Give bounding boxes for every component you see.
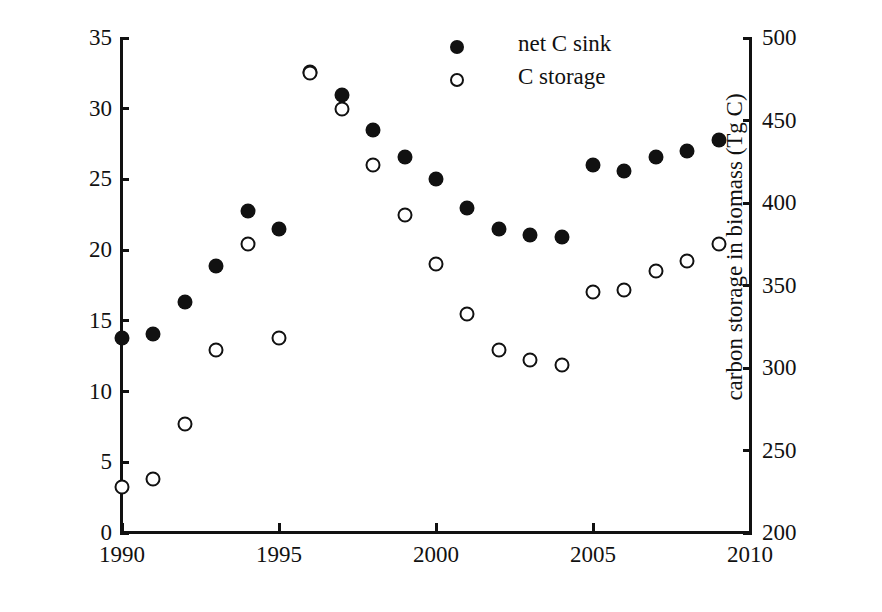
left-axis-line <box>120 38 123 533</box>
x-tick <box>121 523 124 532</box>
data-point-net-c-sink <box>460 200 475 215</box>
data-point-net-c-sink <box>115 330 130 345</box>
left-tick-label: 5 <box>101 450 113 473</box>
data-point-net-c-sink <box>177 295 192 310</box>
left-tick-label: 0 <box>101 521 113 544</box>
data-point-net-c-sink <box>680 144 695 159</box>
legend-label-c-storage: C storage <box>518 64 606 90</box>
right-tick-label: 350 <box>762 274 797 297</box>
x-tick <box>435 523 438 532</box>
data-point-net-c-sink <box>397 149 412 164</box>
data-point-c-storage <box>617 283 632 298</box>
left-tick-label: 10 <box>89 380 112 403</box>
data-point-net-c-sink <box>586 158 601 173</box>
left-tick <box>120 178 129 181</box>
left-tick-label: 20 <box>89 238 112 261</box>
data-point-c-storage <box>523 352 538 367</box>
right-tick-label: 500 <box>762 26 797 49</box>
data-point-net-c-sink <box>554 230 569 245</box>
left-tick-label: 25 <box>89 167 112 190</box>
data-point-c-storage <box>366 158 381 173</box>
x-tick-label: 2000 <box>376 543 496 566</box>
left-tick <box>120 249 129 252</box>
data-point-net-c-sink <box>146 326 161 341</box>
data-point-c-storage <box>334 101 349 116</box>
data-point-net-c-sink <box>334 87 349 102</box>
data-point-c-storage <box>586 285 601 300</box>
right-tick-label: 300 <box>762 356 797 379</box>
right-tick <box>743 449 752 452</box>
data-point-c-storage <box>554 357 569 372</box>
left-tick <box>120 461 129 464</box>
data-point-c-storage <box>680 253 695 268</box>
x-tick-label: 2010 <box>690 543 810 566</box>
chart-figure: 05101520253035 200250300350400450500 199… <box>0 0 882 612</box>
data-point-c-storage <box>303 65 318 80</box>
right-tick-label: 450 <box>762 109 797 132</box>
data-point-c-storage <box>272 331 287 346</box>
data-point-net-c-sink <box>209 258 224 273</box>
left-tick <box>120 390 129 393</box>
data-point-net-c-sink <box>272 221 287 236</box>
data-point-c-storage <box>115 479 130 494</box>
x-tick-label: 1995 <box>219 543 339 566</box>
filled-circle-icon <box>450 40 464 54</box>
data-point-c-storage <box>397 207 412 222</box>
x-tick-label: 1990 <box>62 543 182 566</box>
data-point-net-c-sink <box>648 149 663 164</box>
right-tick-label: 400 <box>762 191 797 214</box>
x-tick <box>749 523 752 532</box>
data-point-c-storage <box>146 471 161 486</box>
data-point-net-c-sink <box>240 203 255 218</box>
data-point-net-c-sink <box>366 122 381 137</box>
right-tick-label: 200 <box>762 521 797 544</box>
data-point-net-c-sink <box>523 227 538 242</box>
legend-label-net-c-sink: net C sink <box>518 31 611 57</box>
right-tick-label: 250 <box>762 439 797 462</box>
left-tick-label: 35 <box>89 26 112 49</box>
right-tick <box>743 37 752 40</box>
data-point-c-storage <box>429 257 444 272</box>
left-tick-label: 30 <box>89 97 112 120</box>
data-point-c-storage <box>648 263 663 278</box>
y-axis-title-right: carbon storage in biomass (Tg C) <box>722 93 748 400</box>
left-tick <box>120 107 129 110</box>
x-tick <box>278 523 281 532</box>
plot-area: 05101520253035 200250300350400450500 199… <box>122 38 750 533</box>
open-circle-icon <box>450 73 464 87</box>
data-point-net-c-sink <box>617 163 632 178</box>
data-point-c-storage <box>209 342 224 357</box>
data-point-net-c-sink <box>491 221 506 236</box>
data-point-c-storage <box>460 306 475 321</box>
left-tick-label: 15 <box>89 309 112 332</box>
data-point-c-storage <box>177 417 192 432</box>
data-point-c-storage <box>240 237 255 252</box>
x-tick <box>592 523 595 532</box>
data-point-c-storage <box>491 342 506 357</box>
left-tick <box>120 319 129 322</box>
left-tick <box>120 37 129 40</box>
x-tick-label: 2005 <box>533 543 653 566</box>
data-point-net-c-sink <box>429 172 444 187</box>
